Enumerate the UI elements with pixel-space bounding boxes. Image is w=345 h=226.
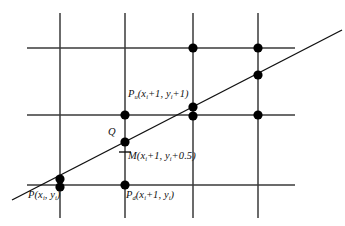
label-point-upper: Pu(xi+1, yi+1) — [128, 89, 189, 100]
label-pd-args: (x — [136, 189, 144, 200]
grid-dot-top-3 — [188, 43, 197, 52]
label-pd-arg-tail: ) — [171, 189, 175, 200]
diagram-dots — [55, 43, 262, 191]
midpoint-line-diagram: Pu(xi+1, yi+1) Q M(xi+1, yi+0.5) Pd(xi+1… — [0, 0, 345, 226]
label-point-lower: Pd(xi+1, yi) — [126, 190, 174, 201]
point-upper-Pu-dot — [120, 110, 129, 119]
label-m-args: (x — [137, 150, 145, 161]
line-dot-mid-3 — [188, 102, 197, 111]
label-m-arg-mid: +1, y — [147, 150, 170, 161]
label-pd-arg-mid: +1, y — [146, 189, 169, 200]
label-m-name: M — [128, 150, 137, 161]
label-p-args: (x — [35, 189, 43, 200]
point-Q-dot — [120, 137, 129, 146]
label-p-arg-tail: ) — [57, 189, 61, 200]
label-pu-arg-mid: +1, y — [148, 88, 171, 99]
grid-dot-mid-4 — [253, 110, 262, 119]
grid-dot-mid-3 — [188, 111, 197, 120]
label-point-q: Q — [108, 127, 116, 138]
label-q-name: Q — [108, 126, 116, 137]
line-dot-origin-upper — [55, 174, 64, 183]
line-dot-upper-right — [253, 70, 262, 79]
label-p-arg-mid: , y — [45, 189, 55, 200]
label-m-arg-tail: +0.5) — [172, 150, 196, 161]
label-point-origin: P(xi, yi) — [28, 190, 60, 201]
grid-dot-top-4 — [253, 43, 262, 52]
label-point-mid: M(xi+1, yi+0.5) — [128, 151, 196, 162]
label-pu-arg-tail: +1) — [173, 88, 189, 99]
label-pu-args: (x — [138, 88, 146, 99]
